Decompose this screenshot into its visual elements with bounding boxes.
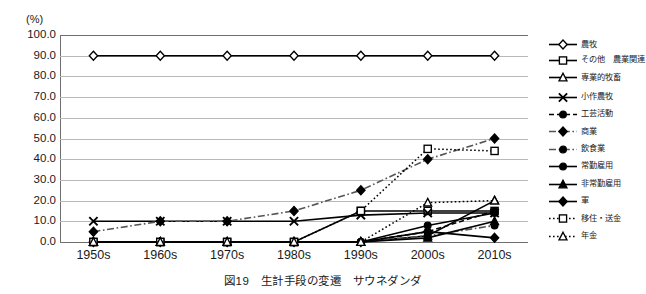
legend-marker-icon xyxy=(548,141,578,158)
chart-legend: 農牧その他 農業関連専業的牧畜小作農牧工芸活動商業飲食業常勤雇用非常勤雇用軍移住… xyxy=(548,36,646,245)
y-axis-tick-70.0: 70.0 xyxy=(10,91,56,103)
legend-label: 年金 xyxy=(578,232,597,240)
legend-item-1[interactable]: その他 農業関連 xyxy=(548,53,646,67)
legend-marker-icon xyxy=(548,228,578,245)
legend-marker-icon xyxy=(548,89,578,106)
legend-marker-icon xyxy=(548,69,578,86)
x-axis-tick-2010s: 2010s xyxy=(455,248,535,262)
legend-item-0[interactable]: 農牧 xyxy=(548,36,646,53)
legend-marker-icon xyxy=(548,123,578,140)
legend-item-6[interactable]: 飲食業 xyxy=(548,141,646,158)
legend-label: 移住・送金 xyxy=(578,215,621,223)
y-axis-tick-40.0: 40.0 xyxy=(10,153,56,165)
legend-marker-icon xyxy=(548,36,578,53)
legend-item-5[interactable]: 商業 xyxy=(548,123,646,140)
legend-item-7[interactable]: 常勤雇用 xyxy=(548,158,646,175)
figure-caption: 図19 生計手段の変遷 サウネダンダ xyxy=(0,272,646,288)
y-axis-tick-50.0: 50.0 xyxy=(10,133,56,145)
legend-item-10[interactable]: 移住・送金 xyxy=(548,210,646,227)
legend-marker-icon xyxy=(548,52,578,69)
plot-area xyxy=(60,35,528,242)
y-axis-tick-90.0: 90.0 xyxy=(10,50,56,62)
legend-item-11[interactable]: 年金 xyxy=(548,228,646,245)
legend-marker-icon xyxy=(548,193,578,210)
legend-item-2[interactable]: 専業的牧畜 xyxy=(548,67,646,88)
y-axis-tick-10.0: 10.0 xyxy=(10,216,56,228)
y-axis-tick-60.0: 60.0 xyxy=(10,112,56,124)
legend-label: 飲食業 xyxy=(578,145,605,153)
legend-label: その他 農業関連 xyxy=(578,56,645,64)
y-axis-tick-20.0: 20.0 xyxy=(10,195,56,207)
series-0 xyxy=(89,51,498,60)
y-axis-tick-0.0: 0.0 xyxy=(10,236,56,248)
legend-label: 農牧 xyxy=(578,41,597,49)
y-axis-tick-30.0: 30.0 xyxy=(10,174,56,186)
legend-item-4[interactable]: 工芸活動 xyxy=(548,106,646,123)
legend-item-8[interactable]: 非常勤雇用 xyxy=(548,175,646,192)
legend-label: 非常勤雇用 xyxy=(578,180,621,188)
chart-series-layer xyxy=(60,35,528,242)
y-axis-tick-100.0: 100.0 xyxy=(10,29,56,41)
legend-marker-icon xyxy=(548,210,578,227)
legend-item-3[interactable]: 小作農牧 xyxy=(548,88,646,105)
legend-label: 商業 xyxy=(578,128,597,136)
y-axis-tick-labels: 100.090.080.070.060.050.040.030.020.010.… xyxy=(8,0,56,294)
legend-label: 工芸活動 xyxy=(578,110,613,118)
legend-item-9[interactable]: 軍 xyxy=(548,193,646,210)
legend-label: 専業的牧畜 xyxy=(578,74,621,82)
legend-marker-icon xyxy=(548,106,578,123)
legend-label: 小作農牧 xyxy=(578,93,613,101)
legend-marker-icon xyxy=(548,176,578,193)
y-axis-tick-80.0: 80.0 xyxy=(10,71,56,83)
legend-marker-icon xyxy=(548,158,578,175)
legend-label: 常勤雇用 xyxy=(578,162,613,170)
legend-label: 軍 xyxy=(578,197,589,205)
